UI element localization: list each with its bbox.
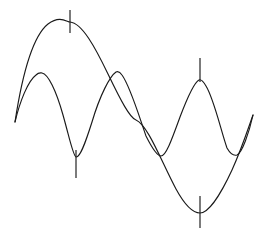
plot-background (0, 0, 272, 236)
wave-plot-canvas (0, 0, 272, 236)
sine-wave-figure (0, 0, 272, 236)
